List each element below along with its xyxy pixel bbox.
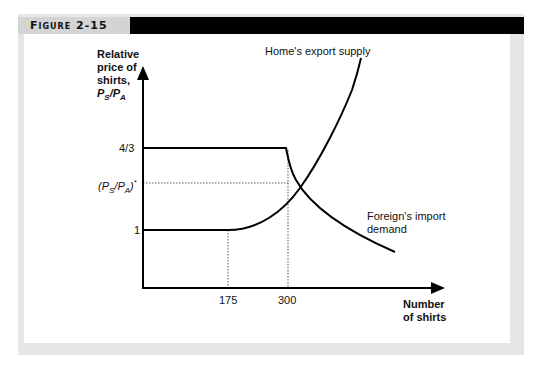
y-axis-title-line3: shirts, [97,74,139,87]
y-axis-title: Relative price of shirts, PS/PA [97,48,139,104]
demand-label-line1: Foreign's import [367,210,446,223]
x-axis-arrow-icon [431,282,445,294]
y-tick-4-3: 4/3 [119,142,134,155]
foreign-import-demand-curve [143,148,395,252]
y-tick-1: 1 [134,224,140,237]
x-tick-300: 300 [278,294,296,307]
demand-label-line2: demand [367,223,446,236]
supply-curve-label: Home's export supply [265,45,370,58]
demand-curve-label: Foreign's import demand [367,210,446,236]
y-axis-title-line2: price of [97,61,139,74]
y-tick-equilibrium: (PS/PA)* [98,176,137,197]
home-export-supply-curve [143,58,361,230]
y-axis-ratio: PS/PA [97,87,139,104]
x-axis-title-line1: Number [403,298,446,311]
x-axis-title-line2: of shirts [403,311,446,324]
x-axis-title: Number of shirts [403,298,446,324]
x-tick-175: 175 [219,294,237,307]
y-axis-title-line1: Relative [97,48,139,61]
